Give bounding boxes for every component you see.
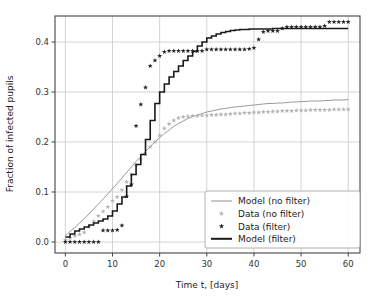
- legend-entry-label: Data (filter): [238, 222, 290, 232]
- x-tick-label: 10: [107, 259, 118, 269]
- x-tick-label: 20: [154, 259, 165, 269]
- y-tick-label: 0.3: [35, 87, 49, 97]
- x-tick-label: 50: [296, 259, 307, 269]
- x-axis-label: Time t, [days]: [175, 280, 238, 290]
- x-tick-label: 60: [343, 259, 354, 269]
- legend-entry-label: Model (filter): [238, 234, 296, 244]
- y-tick-label: 0.2: [35, 137, 49, 147]
- x-tick-label: 0: [63, 259, 68, 269]
- x-tick-label: 40: [249, 259, 260, 269]
- y-tick-label: 0.4: [35, 37, 49, 47]
- y-tick-label: 0.1: [35, 187, 49, 197]
- y-axis-label: Fraction of infected pupils: [5, 75, 15, 192]
- chart-figure: 01020304050600.00.10.20.30.4 Model (no f…: [0, 0, 382, 297]
- legend-entry-label: Model (no filter): [238, 196, 310, 206]
- x-tick-label: 30: [201, 259, 212, 269]
- chart-legend: Model (no filter)Data (no filter)Data (f…: [205, 191, 360, 248]
- legend-entry-label: Data (no filter): [238, 209, 304, 219]
- y-tick-label: 0.0: [35, 237, 49, 247]
- chart-svg: 01020304050600.00.10.20.30.4 Model (no f…: [0, 0, 382, 297]
